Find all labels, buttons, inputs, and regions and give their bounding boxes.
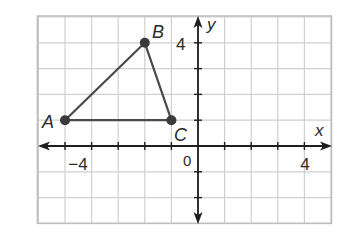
- vertex-label-a: A: [41, 112, 54, 132]
- vertex-point-c: [166, 115, 176, 125]
- x-axis-label: x: [314, 121, 324, 140]
- vertex-label-c: C: [174, 125, 188, 145]
- vertex-point-b: [140, 38, 150, 48]
- coordinate-plane: x y 0 −4 4 4 A B C: [0, 0, 347, 233]
- x-tick-label-4: 4: [300, 155, 309, 174]
- origin-label: 0: [183, 152, 191, 169]
- vertex-label-b: B: [152, 22, 164, 42]
- vertex-point-a: [60, 115, 70, 125]
- y-tick-label-4: 4: [176, 35, 185, 54]
- x-tick-label-neg4: −4: [68, 155, 87, 174]
- y-axis-label: y: [206, 15, 217, 34]
